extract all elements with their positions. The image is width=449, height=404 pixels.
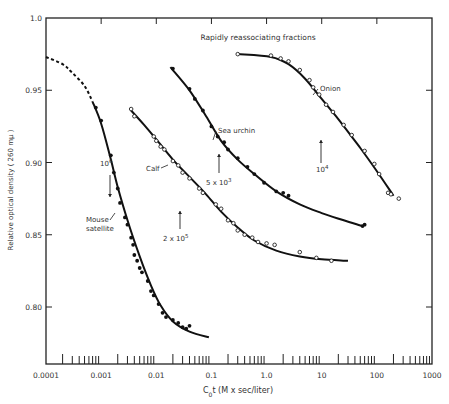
mouse-satellite-point [132, 253, 136, 257]
onion-point [373, 162, 377, 166]
onion-point [308, 78, 312, 82]
calf-point [163, 148, 167, 152]
calf-point [232, 221, 236, 225]
calf-point [159, 145, 163, 149]
mouse-satellite-point [99, 119, 103, 123]
y-axis-label: Relative optical density ( 260 mμ ) [7, 129, 15, 250]
calf-point [265, 242, 269, 246]
calf-point [176, 164, 180, 168]
calf-point [315, 256, 319, 260]
sea-urchin-annotation-arrowhead [217, 154, 221, 157]
x-tick-label: 0.01 [148, 371, 165, 380]
sea-urchin-label: Sea urchin [218, 127, 255, 135]
sea-urchin-point [201, 109, 205, 113]
calf-point [152, 135, 156, 139]
sea-urchin-point [193, 97, 197, 101]
calf-point [201, 191, 205, 195]
calf-point [226, 219, 230, 223]
mouse-satellite-point [123, 216, 127, 220]
onion-point [350, 133, 354, 137]
mouse-satellite-point [131, 243, 135, 247]
calf-point [214, 203, 218, 207]
calf-annotation-arrowhead [178, 211, 182, 214]
onion-annotation-arrowhead [319, 140, 323, 143]
y-tick-label: 1.0 [30, 14, 42, 23]
onion-point [298, 68, 302, 72]
mouse-satellite-label: satellite [86, 225, 114, 233]
calf-point [181, 171, 185, 175]
calf-point [219, 207, 223, 211]
calf-point [133, 114, 137, 118]
y-tick-label: 0.90 [25, 159, 42, 168]
mouse-satellite-point [184, 327, 188, 331]
mouse-satellite-point [152, 294, 156, 298]
chart-title: Rapidly reassociating fractions [200, 33, 315, 42]
sea-urchin-point [188, 87, 192, 91]
mouse-satellite-point [176, 321, 180, 325]
sea-urchin-point [216, 135, 220, 139]
mouse-satellite-point [171, 318, 175, 322]
calf-label-leader [161, 165, 168, 168]
sea-urchin-point [226, 148, 230, 152]
calf-point [154, 139, 158, 143]
onion-point [279, 57, 283, 61]
calf-annotation: 2 x 105 [163, 233, 189, 243]
plot-frame [46, 18, 432, 364]
calf-point [330, 259, 334, 263]
calf-point [243, 233, 247, 237]
calf-label: Calf [146, 165, 160, 173]
mouse-satellite-point [149, 289, 153, 293]
mouse-satellite-annotation-arrowhead [108, 194, 112, 197]
calf-point [171, 159, 175, 163]
chart: 0.00010.0010.010.11.01010010000.800.850.… [0, 0, 449, 404]
onion-point [377, 172, 381, 176]
calf-point [256, 240, 260, 244]
calf-point [236, 229, 240, 233]
onion-point [311, 86, 315, 90]
onion-point [287, 60, 291, 64]
y-tick-label: 0.80 [25, 303, 42, 312]
mouse-satellite-annotation: 106 [100, 158, 113, 168]
sea-urchin-point [246, 165, 250, 169]
calf-point [129, 107, 133, 111]
mouse-satellite-point [94, 106, 98, 110]
sea-urchin-point [281, 191, 285, 195]
onion-label: Onion [320, 85, 341, 93]
sea-urchin-point [274, 190, 278, 194]
sea-urchin-annotation: 5 x 103 [206, 177, 232, 187]
mouse-satellite-point [161, 311, 165, 315]
mouse-satellite-point [135, 259, 139, 263]
sea-urchin-point [252, 172, 256, 176]
sea-urchin-point [287, 194, 291, 198]
mouse-satellite-point [181, 325, 185, 329]
x-axis-label: C0t (M x sec/liter) [203, 386, 273, 398]
x-tick-label: 0.0001 [33, 371, 59, 380]
x-tick-label: 100 [370, 371, 385, 380]
onion-point [342, 123, 346, 127]
mouse-satellite-point [116, 187, 120, 191]
calf-point [188, 177, 192, 181]
onion-point [269, 54, 273, 58]
mouse-satellite-point [129, 236, 133, 240]
plot-area: 0.00010.0010.010.11.01010010000.800.850.… [0, 0, 449, 404]
mouse-satellite-point [188, 324, 192, 328]
calf-point [250, 236, 254, 240]
y-tick-label: 0.95 [25, 86, 42, 95]
mouse-satellite-point [138, 266, 142, 270]
sea-urchin-point [236, 156, 240, 160]
onion-point [324, 103, 328, 107]
mouse-satellite-point [126, 223, 130, 227]
x-tick-label: 10 [317, 371, 327, 380]
calf-point [298, 250, 302, 254]
x-tick-label: 0.001 [90, 371, 112, 380]
onion-point [331, 110, 335, 114]
calf-point [273, 243, 277, 247]
onion-point [397, 197, 401, 201]
sea-urchin-point [171, 67, 175, 71]
onion-annotation: 104 [316, 164, 329, 174]
sea-urchin-point [363, 223, 367, 227]
y-tick-label: 0.85 [25, 231, 42, 240]
sea-urchin-point [262, 181, 266, 185]
onion-curve [238, 54, 394, 196]
calf-point [197, 187, 201, 191]
